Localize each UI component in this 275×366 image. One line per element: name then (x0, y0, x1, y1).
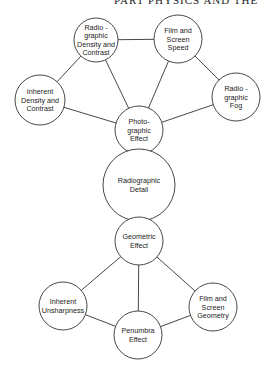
edge-penumbra-to-film-geometry (161, 315, 191, 326)
edge-film-speed-to-rad-fog (195, 56, 219, 80)
edge-geo-effect-to-film-geometry (157, 257, 195, 291)
diagram-nodes: Radio -graphicDensity andContrastFilm an… (15, 15, 260, 359)
node-geo-effect: GeometricEffect (115, 217, 163, 265)
node-label-line: Geometry (197, 311, 229, 320)
node-penumbra: PenumbraEffect (114, 311, 162, 359)
node-photo-effect: Photo-graphicEffect (115, 106, 163, 154)
node-label-line: Effect (130, 134, 148, 143)
node-inherent-density: InherentDensity andContrast (15, 75, 65, 125)
node-film-geometry: Film andScreenGeometry (189, 283, 237, 331)
edge-rad-fog-to-photo-effect (162, 105, 214, 123)
node-label-line: Contrast (82, 48, 109, 57)
node-label-line: Unsharpness (42, 306, 85, 315)
edge-inherent-density-to-rad-density (57, 56, 81, 82)
node-rad-fog: Radio -graphicFog (212, 73, 260, 121)
concept-diagram: Radio -graphicDensity andContrastFilm an… (0, 0, 275, 366)
node-label-line: Effect (130, 241, 148, 250)
node-label-line: Detail (130, 185, 149, 194)
edge-rad-density-to-photo-effect (106, 60, 129, 108)
node-label-line: Speed (168, 43, 189, 52)
node-inherent-unsharp: InherentUnsharpness (39, 282, 87, 330)
edge-inherent-unsharp-to-penumbra (85, 315, 115, 327)
node-rad-density: Radio -graphicDensity andContrast (74, 18, 118, 62)
node-rad-detail: RadiographicDetail (103, 149, 175, 221)
edge-film-speed-to-photo-effect (149, 61, 169, 108)
node-label-line: Contrast (26, 104, 53, 113)
node-film-speed: Film andScreenSpeed (154, 15, 202, 63)
edge-inherent-density-to-photo-effect (64, 107, 116, 123)
edge-geo-effect-to-inherent-unsharp (81, 257, 121, 291)
node-label-line: Fog (230, 101, 242, 110)
node-label-line: Effect (129, 335, 147, 344)
